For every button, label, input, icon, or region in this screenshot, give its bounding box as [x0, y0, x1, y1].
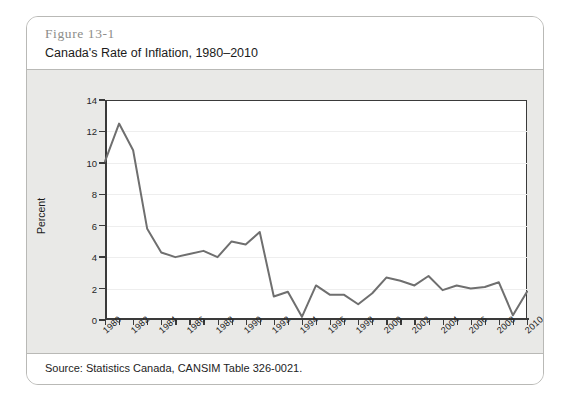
- y-tick-label: 10: [73, 157, 97, 168]
- figure-body: 02468101214 1980198219841986198819901992…: [27, 70, 543, 355]
- figure-number: Figure 13-1: [45, 25, 543, 42]
- figure-card: Figure 13-1 Canada's Rate of Inflation, …: [26, 16, 544, 385]
- y-tick-label: 14: [73, 95, 97, 106]
- source-note: Source: Statistics Canada, CANSIM Table …: [45, 362, 302, 374]
- figure-root: Figure 13-1 Canada's Rate of Inflation, …: [0, 0, 572, 401]
- figure-title: Canada's Rate of Inflation, 1980–2010: [45, 44, 543, 62]
- figure-header: Figure 13-1 Canada's Rate of Inflation, …: [27, 17, 543, 70]
- y-tick-label: 12: [73, 126, 97, 137]
- figure-footer: Source: Statistics Canada, CANSIM Table …: [27, 353, 543, 384]
- y-tick-label: 6: [73, 220, 97, 231]
- y-tick-label: 0: [73, 315, 97, 326]
- chart-plot: 02468101214 1980198219841986198819901992…: [27, 70, 544, 355]
- y-tick-label: 8: [73, 189, 97, 200]
- y-tick-label: 4: [73, 252, 97, 263]
- y-tick-label: 2: [73, 283, 97, 294]
- y-axis-title: Percent: [35, 198, 47, 234]
- inflation-line-series: [105, 100, 527, 320]
